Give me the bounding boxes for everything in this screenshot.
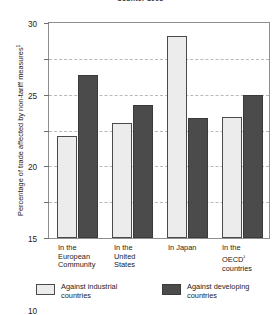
y-axis-tick-label: 30 [28, 20, 37, 29]
y-axis-tick: 5 [44, 202, 49, 203]
legend-swatch-dark [162, 284, 181, 295]
x-axis-label: In theUnitedStates [114, 244, 135, 270]
y-axis-tick: 25 [44, 59, 49, 60]
bar [222, 117, 242, 238]
y-axis-tick: 0 [44, 238, 49, 239]
legend-label: Against industrial countries [61, 283, 117, 300]
x-axis-label: In theEuropeanCommunity [58, 244, 95, 270]
bar [112, 123, 132, 238]
x-axis-label-line: OECD² [222, 253, 252, 265]
y-axis-tick: 20 [44, 95, 49, 96]
bar [57, 136, 77, 238]
x-axis-label-line: In the [222, 244, 252, 253]
bar [167, 36, 187, 238]
legend-item[interactable]: Against developing countries [162, 283, 249, 300]
x-axis-label-line: States [114, 261, 135, 270]
y-axis-title-text: Percentage of trade affected by non-tari… [16, 47, 25, 216]
y-axis-tick-label: 25 [28, 91, 37, 100]
x-axis-label-line: countries [222, 265, 252, 274]
x-axis-label-line: Community [58, 261, 95, 270]
x-axis-label: In theOECD²countries [222, 244, 252, 273]
bar [78, 75, 98, 238]
y-axis-tick-label: 20 [28, 163, 37, 172]
bar [243, 95, 263, 238]
gridline [49, 59, 269, 60]
x-axis-label-line: In Japan [168, 244, 196, 253]
bar [133, 105, 153, 238]
y-axis-tick: 15 [44, 131, 49, 132]
chart-title: Counter 1998 [0, 0, 280, 3]
y-axis-tick-label: 15 [28, 235, 37, 244]
plot-inner: 051015202530 [49, 23, 269, 238]
y-axis-title-footnote: 1 [15, 45, 21, 48]
chart-container: Counter 1998 Percentage of trade affecte… [0, 0, 280, 315]
y-axis-tick: 30 [44, 23, 49, 24]
bar [188, 118, 208, 238]
plot-area: 051015202530 [48, 22, 270, 239]
x-axis-label-footnote: ² [243, 254, 245, 260]
legend-item[interactable]: Against industrial countries [36, 283, 117, 300]
chart-legend: Against industrial countriesAgainst deve… [0, 281, 280, 311]
y-axis-title: Percentage of trade affected by non-tari… [15, 22, 25, 238]
y-axis-tick: 10 [44, 166, 49, 167]
x-axis-label: In Japan [168, 244, 196, 253]
legend-label: Against developing countries [187, 283, 249, 300]
legend-swatch-light [36, 284, 55, 295]
